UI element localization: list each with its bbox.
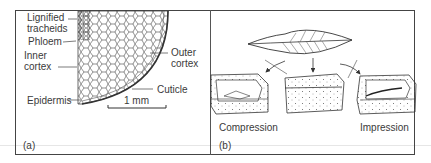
panel-b-tag: (b) <box>219 140 231 151</box>
label-lignified: Lignified <box>27 12 64 23</box>
label-cuticle: Cuticle <box>157 84 188 95</box>
label-outer: Outer <box>171 47 196 58</box>
label-inner-cortex: cortex <box>24 61 51 72</box>
label-tracheids: tracheids <box>27 23 68 34</box>
label-compression: Compression <box>219 122 278 133</box>
panel-a-tag: (a) <box>23 140 35 151</box>
label-outer-cortex: cortex <box>171 58 198 69</box>
label-impression: Impression <box>360 122 409 133</box>
scale-bar-label: 1 mm <box>124 95 149 106</box>
label-phloem: Phloem <box>28 36 62 47</box>
label-inner: Inner <box>24 50 47 61</box>
label-epidermis: Epidermis <box>27 95 71 106</box>
